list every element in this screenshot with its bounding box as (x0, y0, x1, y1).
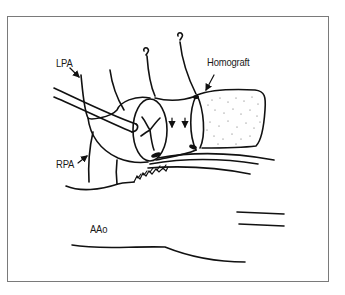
traction-suture-1 (144, 48, 155, 96)
rpa-vessel (89, 132, 93, 182)
conduit-top (155, 96, 196, 100)
traction-suture-2 (178, 33, 196, 94)
label-homograft: Homograft (207, 56, 250, 68)
vessel-line-inner (116, 160, 117, 184)
suture-knot-3 (193, 95, 199, 99)
homograft-ring-right (197, 95, 204, 148)
homograft-arrow (206, 75, 214, 90)
label-rpa: RPA (56, 158, 74, 170)
homograft-ring-left (191, 96, 196, 150)
aorta-line-right-1 (237, 212, 284, 214)
homograft-body (197, 90, 265, 148)
valve-leaflets (141, 117, 160, 150)
aorta-bottom-contour (72, 245, 245, 262)
pulmonary-trunk-bulge (88, 97, 150, 162)
label-aao: AAo (90, 223, 107, 235)
conduit-lower-line-2 (150, 160, 258, 165)
rpa-arrow (78, 156, 87, 163)
aorta-line-right-2 (239, 224, 284, 226)
label-lpa: LPA (56, 57, 73, 69)
lpa-arrow (70, 68, 79, 77)
aorta-top-contour (66, 182, 134, 190)
homograft-stipple (207, 97, 261, 145)
surgical-diagram (0, 0, 345, 295)
